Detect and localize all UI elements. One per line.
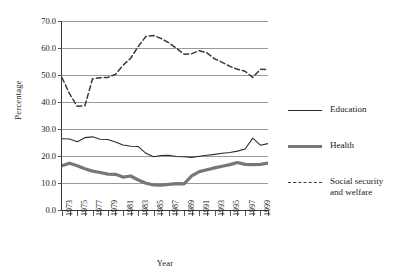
x-tick-label: 1975 bbox=[81, 200, 89, 216]
x-tick-label: 1977 bbox=[96, 200, 104, 216]
x-tick-label: 1979 bbox=[111, 200, 119, 216]
x-tick-mark bbox=[138, 211, 139, 216]
x-tick-mark bbox=[184, 211, 185, 216]
legend-item-education: Education bbox=[288, 104, 396, 118]
legend-item-social-security: Social securityand welfare bbox=[288, 176, 396, 198]
x-tick-mark bbox=[62, 211, 63, 216]
x-tick-mark bbox=[199, 211, 200, 216]
y-tick-label: 50.0 bbox=[22, 71, 56, 80]
y-tick-label: 30.0 bbox=[22, 125, 56, 134]
x-tick-label: 1985 bbox=[157, 200, 165, 216]
x-tick-mark bbox=[215, 211, 216, 216]
x-tick-label: 1995 bbox=[233, 200, 241, 216]
x-tick-mark bbox=[169, 211, 170, 216]
x-tick-label: 1983 bbox=[142, 200, 150, 216]
x-tick-label: 1991 bbox=[203, 200, 211, 216]
series-line-health bbox=[62, 162, 268, 185]
x-tick-label: 1987 bbox=[172, 200, 180, 216]
x-tick-mark bbox=[77, 211, 78, 216]
x-tick-label: 1973 bbox=[66, 200, 74, 216]
y-tick-label: 60.0 bbox=[22, 44, 56, 53]
y-tick-label: 0.0 bbox=[22, 206, 56, 215]
chart-legend: Education Health Social securityand welf… bbox=[288, 104, 396, 220]
chart-figure: Percentage Year 70.060.050.040.030.020.0… bbox=[0, 0, 397, 278]
legend-line-social-security-icon bbox=[288, 182, 322, 183]
x-tick-mark bbox=[108, 211, 109, 216]
x-tick-label: 1997 bbox=[249, 200, 257, 216]
x-tick-mark bbox=[230, 211, 231, 216]
x-tick-label: 1981 bbox=[127, 200, 135, 216]
y-axis-tick-labels: 70.060.050.040.030.020.010.00.0 bbox=[18, 0, 56, 278]
y-tick-label: 70.0 bbox=[22, 17, 56, 26]
y-tick-label: 40.0 bbox=[22, 98, 56, 107]
y-tick-label: 20.0 bbox=[22, 152, 56, 161]
legend-item-health: Health bbox=[288, 140, 396, 154]
plot-area bbox=[62, 21, 268, 210]
x-tick-mark bbox=[260, 211, 261, 216]
x-tick-label: 1993 bbox=[218, 200, 226, 216]
series-line-education bbox=[62, 137, 268, 158]
x-tick-label: 1989 bbox=[188, 200, 196, 216]
legend-line-health-icon bbox=[288, 145, 322, 148]
legend-line-education-icon bbox=[288, 110, 322, 111]
series-lines bbox=[62, 21, 268, 211]
x-tick-mark bbox=[123, 211, 124, 216]
x-axis-title: Year bbox=[130, 258, 200, 268]
series-line-social-security-and-welfare bbox=[62, 36, 268, 107]
legend-label-education: Education bbox=[330, 104, 396, 115]
y-tick-label: 10.0 bbox=[22, 179, 56, 188]
x-tick-mark bbox=[154, 211, 155, 216]
legend-label-social-security: Social securityand welfare bbox=[330, 176, 396, 198]
legend-label-health: Health bbox=[330, 140, 396, 151]
x-tick-mark bbox=[93, 211, 94, 216]
x-tick-label: 1999 bbox=[264, 200, 272, 216]
x-tick-mark bbox=[245, 211, 246, 216]
